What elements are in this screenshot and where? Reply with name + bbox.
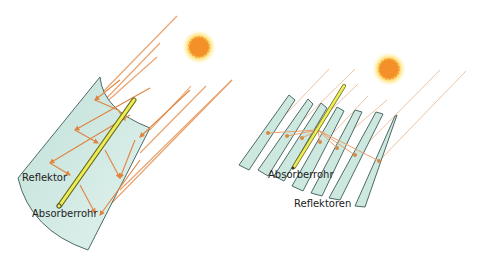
reflector-label: Reflektor: [22, 173, 67, 183]
solar-collector-diagram: Reflektor Absorberrohr Absorberrohr Refl…: [0, 0, 483, 261]
absorber-tube-label-right: Absorberrohr: [268, 170, 334, 180]
left-sun-icon: [182, 30, 216, 64]
diagram-canvas: [0, 0, 483, 261]
right-sun-icon: [372, 52, 406, 86]
reflectors-label: Reflektoren: [294, 199, 351, 209]
absorber-tube-label-left: Absorberrohr: [32, 209, 98, 219]
